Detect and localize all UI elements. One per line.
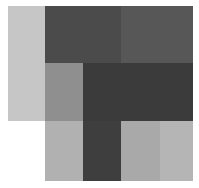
- gray-block: [45, 121, 83, 181]
- gray-block: [83, 121, 121, 181]
- gray-block: [160, 121, 193, 181]
- gray-block-grid: [0, 0, 199, 188]
- gray-block: [8, 6, 45, 121]
- gray-block: [83, 63, 193, 121]
- gray-block: [121, 6, 193, 63]
- gray-block: [45, 63, 83, 121]
- gray-block: [121, 121, 160, 181]
- gray-block: [45, 6, 121, 63]
